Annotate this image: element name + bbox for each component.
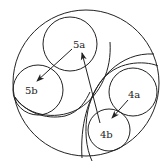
diagram-svg: 5a 5b 4a 4b	[0, 0, 168, 166]
circle-5a	[43, 17, 97, 71]
label-4a: 4a	[128, 89, 140, 100]
diagram-canvas: 5a 5b 4a 4b	[0, 0, 168, 166]
label-5a: 5a	[73, 39, 85, 50]
label-4b: 4b	[100, 129, 113, 140]
circle-5b	[13, 65, 63, 115]
arrow-4b-to-5a	[82, 53, 100, 123]
label-5b: 5b	[25, 85, 38, 96]
